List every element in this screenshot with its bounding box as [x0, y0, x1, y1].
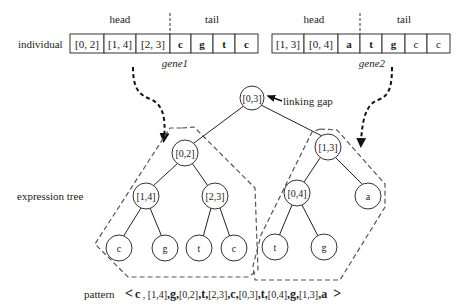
gene1-cell-text: c — [178, 38, 183, 50]
gene2-cell-text: t — [369, 38, 373, 50]
tree-node: [0,4] — [284, 180, 310, 206]
linking-gap-annotation: linking gap — [268, 95, 333, 107]
svg-text:[0,4]: [0,4] — [287, 188, 306, 199]
gene1-cell-text: [2, 3] — [141, 38, 165, 50]
gene2-head-label: head — [304, 13, 325, 25]
tree-node: c — [221, 235, 247, 261]
svg-text:g: g — [322, 242, 327, 253]
linking-gap-arrow-icon — [268, 96, 282, 101]
pattern-label: pattern — [84, 288, 115, 300]
tree-node-root: [0,3] — [240, 86, 264, 110]
gene2-cell-text: c — [436, 38, 441, 50]
svg-text:[1,3]: [1,3] — [318, 142, 337, 153]
linking-gap-label: linking gap — [283, 95, 333, 107]
gene1-cell-text: [0, 2] — [75, 38, 99, 50]
gene2-cell-text: g — [391, 38, 397, 50]
svg-text:t: t — [198, 243, 201, 254]
gene1-cell-text: [1, 4] — [108, 38, 132, 50]
svg-text:g: g — [163, 243, 168, 254]
gene1-name: gene1 — [162, 57, 188, 69]
gene2-name: gene2 — [359, 57, 386, 69]
tree-node: g — [311, 234, 337, 260]
svg-text:a: a — [366, 191, 371, 202]
gep-diagram: individual head tail [0, 2] [1, 4] [2, 3… — [0, 0, 468, 305]
tree-node: [0,2] — [172, 140, 198, 166]
tree-edges — [123, 105, 362, 237]
tree-node: g — [152, 235, 178, 261]
tree-node: [1,4] — [133, 183, 159, 209]
gene2-cell-text: a — [346, 38, 352, 50]
gene2-cell-text: c — [414, 38, 419, 50]
gene1-chromosome: head tail [0, 2] [1, 4] [2, 3] c g t c g… — [70, 13, 258, 69]
tree-node: c — [106, 235, 132, 261]
gene1-cell-text: t — [222, 38, 226, 50]
svg-text:c: c — [117, 243, 122, 254]
gene1-tail-label: tail — [205, 13, 219, 25]
svg-text:[2,3]: [2,3] — [205, 191, 224, 202]
tree-node: t — [262, 234, 288, 260]
svg-text:[0,3]: [0,3] — [242, 93, 261, 104]
svg-text:t: t — [274, 242, 277, 253]
gene1-head-label: head — [110, 13, 131, 25]
tree-node: t — [186, 235, 212, 261]
tree-node: [2,3] — [202, 183, 228, 209]
gene2-cell-text: [1, 3] — [276, 38, 300, 50]
gene2-tail-label: tail — [397, 13, 411, 25]
pattern-sequence: <c , [1,4],g,[0,2],t,[2,3],c,[0,3],t,[0,… — [125, 286, 341, 301]
tree-node: a — [355, 183, 381, 209]
gene1-cell-text: c — [244, 38, 249, 50]
gene2-mapping-arrow-icon — [361, 67, 392, 143]
gene1-mapping-arrow-icon — [133, 67, 165, 138]
individual-label: individual — [18, 38, 63, 50]
gene2-chromosome: head tail [1, 3] [0, 4] a t g c c gene2 — [272, 13, 450, 69]
gene2-cell-text: [0, 4] — [309, 38, 333, 50]
tree-node: [1,3] — [315, 134, 341, 160]
svg-text:c: c — [232, 243, 237, 254]
gene1-cell-text: g — [199, 38, 205, 50]
svg-text:[1,4]: [1,4] — [136, 191, 155, 202]
svg-text:[0,2]: [0,2] — [175, 148, 194, 159]
expression-tree-label: expression tree — [17, 190, 83, 202]
